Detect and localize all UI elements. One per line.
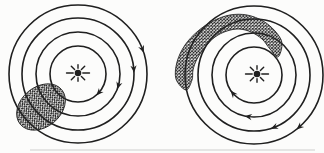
star-icon-left: [75, 70, 82, 77]
star-icon-right: [254, 71, 261, 78]
differential-rotation-figure: [0, 0, 324, 153]
orbit-diagram-canvas: [0, 0, 324, 153]
scan-artifact: [30, 149, 315, 151]
